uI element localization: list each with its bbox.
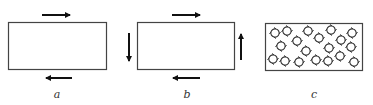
diagram-canvas: a b <box>0 0 373 105</box>
vortex-icons <box>268 25 360 68</box>
panel-b-label: b <box>183 88 190 101</box>
panel-b: b <box>129 15 241 101</box>
panel-b-rectangle <box>138 23 235 70</box>
panel-a-rectangle <box>9 23 107 70</box>
panel-c: c <box>266 24 363 102</box>
panel-a-label: a <box>54 88 61 101</box>
panel-c-label: c <box>311 88 317 101</box>
panel-a: a <box>9 15 107 101</box>
